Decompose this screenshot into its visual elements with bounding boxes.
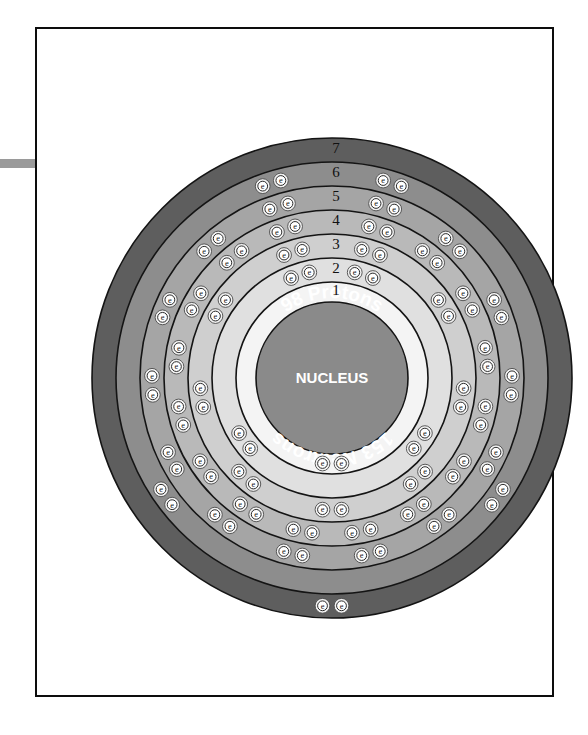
electron: e xyxy=(273,173,288,188)
electron-glyph: e xyxy=(340,602,344,611)
electron: e xyxy=(441,309,456,324)
electron-glyph: e xyxy=(321,602,325,611)
electron-glyph: e xyxy=(486,362,490,371)
electron-glyph: e xyxy=(462,384,466,393)
electron-glyph: e xyxy=(225,259,229,268)
electron-glyph: e xyxy=(251,480,255,489)
electron: e xyxy=(286,522,301,537)
electron-glyph: e xyxy=(310,529,314,538)
electron: e xyxy=(315,456,330,471)
bohr-model-diagram: 98 Protons153 NeutronsNUCLEUS eeeeeeeeee… xyxy=(91,137,573,619)
electron: e xyxy=(207,507,222,522)
shell-number-7: 7 xyxy=(332,140,340,156)
electron-glyph: e xyxy=(500,313,504,322)
electron: e xyxy=(184,302,199,317)
electron: e xyxy=(255,179,270,194)
electron-glyph: e xyxy=(409,480,413,489)
shell-number-5: 5 xyxy=(332,188,340,204)
electron: e xyxy=(387,202,402,217)
electron-glyph: e xyxy=(490,501,494,510)
electron: e xyxy=(452,244,467,259)
shell-number-3: 3 xyxy=(332,236,340,252)
electron-glyph: e xyxy=(444,234,448,243)
electron-glyph: e xyxy=(399,182,403,191)
electron-glyph: e xyxy=(168,296,172,305)
electron: e xyxy=(363,522,378,537)
electron-glyph: e xyxy=(367,222,371,231)
electron-glyph: e xyxy=(479,421,483,430)
electron-glyph: e xyxy=(423,429,427,438)
electron-glyph: e xyxy=(458,247,462,256)
electron: e xyxy=(295,242,310,257)
electron-glyph: e xyxy=(321,505,325,514)
electron: e xyxy=(453,400,468,415)
electron-glyph: e xyxy=(300,245,304,254)
electron: e xyxy=(295,548,310,563)
electron: e xyxy=(211,231,226,246)
electron-glyph: e xyxy=(248,444,252,453)
electron: e xyxy=(373,544,388,559)
electron-glyph: e xyxy=(492,296,496,305)
electron-glyph: e xyxy=(321,459,325,468)
electron: e xyxy=(204,469,219,484)
electron-glyph: e xyxy=(268,205,272,214)
electron: e xyxy=(369,196,384,211)
electron: e xyxy=(376,173,391,188)
electron-glyph: e xyxy=(451,472,455,481)
electron-glyph: e xyxy=(177,344,181,353)
electron-glyph: e xyxy=(300,551,304,560)
electron: e xyxy=(334,598,349,613)
electron: e xyxy=(277,248,292,263)
electron: e xyxy=(162,292,177,307)
electron-glyph: e xyxy=(447,510,451,519)
electron: e xyxy=(406,441,421,456)
electron-glyph: e xyxy=(501,485,505,494)
electron-glyph: e xyxy=(201,403,205,412)
electron-glyph: e xyxy=(224,296,228,305)
nucleus-center-label: NUCLEUS xyxy=(296,369,369,386)
electron: e xyxy=(484,497,499,512)
electron: e xyxy=(315,502,330,517)
electron-glyph: e xyxy=(177,402,181,411)
electron: e xyxy=(145,387,160,402)
electron: e xyxy=(208,309,223,324)
electron-glyph: e xyxy=(282,547,286,556)
electron-glyph: e xyxy=(279,176,283,185)
electron-glyph: e xyxy=(462,457,466,466)
electron-glyph: e xyxy=(484,402,488,411)
electron-glyph: e xyxy=(202,247,206,256)
electron-glyph: e xyxy=(214,312,218,321)
electron: e xyxy=(403,477,418,492)
electron-glyph: e xyxy=(360,245,364,254)
electron-glyph: e xyxy=(510,372,514,381)
electron: e xyxy=(233,497,248,512)
electron: e xyxy=(365,271,380,286)
electron-glyph: e xyxy=(392,205,396,214)
electron-glyph: e xyxy=(459,403,463,412)
electron-glyph: e xyxy=(150,372,154,381)
shell-number-6: 6 xyxy=(332,164,340,180)
electron: e xyxy=(496,482,511,497)
electron-glyph: e xyxy=(198,457,202,466)
electron-glyph: e xyxy=(238,500,242,509)
electron: e xyxy=(417,426,432,441)
electron-glyph: e xyxy=(166,448,170,457)
electron-glyph: e xyxy=(360,551,364,560)
electron-glyph: e xyxy=(340,459,344,468)
electron: e xyxy=(394,179,409,194)
shell-number-2: 2 xyxy=(332,260,340,276)
electron: e xyxy=(276,544,291,559)
electron: e xyxy=(504,387,519,402)
electron: e xyxy=(489,445,504,460)
electron: e xyxy=(334,502,349,517)
electron: e xyxy=(480,462,495,477)
electron: e xyxy=(430,255,445,270)
electron: e xyxy=(171,399,186,414)
electron-glyph: e xyxy=(412,444,416,453)
electron-glyph: e xyxy=(340,505,344,514)
electron: e xyxy=(494,310,509,325)
electron: e xyxy=(334,456,349,471)
page-sheet: 98 Protons153 NeutronsNUCLEUS eeeeeeeeee… xyxy=(35,27,554,697)
electron: e xyxy=(218,293,233,308)
electron-glyph: e xyxy=(432,522,436,531)
